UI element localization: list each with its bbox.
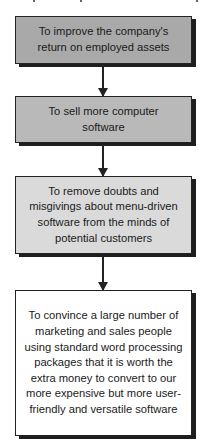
flow-node-remove-doubts: To remove doubts and misgivings about me… <box>15 176 192 254</box>
arrow-down-icon <box>102 143 104 176</box>
flow-node-text: To sell more computer software <box>38 104 169 135</box>
flow-node-text: To improve the company's return on emplo… <box>24 24 183 55</box>
flow-node-text: To remove doubts and misgivings about me… <box>22 184 185 246</box>
arrow-down-icon <box>102 254 104 290</box>
flow-node-sell-software: To sell more computer software <box>15 96 192 143</box>
flow-node-convince-sales-people: To convince a large number of marketing … <box>15 290 192 436</box>
flow-node-improve-return: To improve the company's return on emplo… <box>15 16 192 64</box>
arrow-down-icon <box>102 64 104 96</box>
flow-node-text: To convince a large number of marketing … <box>24 308 183 417</box>
cropped-top-text-fragment <box>0 0 213 4</box>
